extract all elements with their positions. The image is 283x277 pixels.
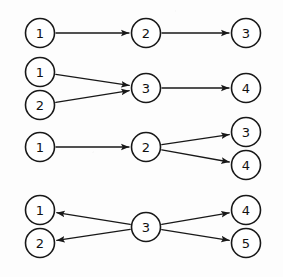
graph-node-hub-out-4[interactable]: 4: [232, 196, 261, 225]
node-label: 3: [242, 26, 250, 41]
graph-node-fan-in-3[interactable]: 3: [132, 74, 161, 103]
node-label: 4: [242, 203, 250, 218]
graph-edge-hub-out-3: [162, 213, 229, 224]
graph-node-hub-out-1[interactable]: 1: [26, 196, 55, 225]
node-label: 3: [142, 220, 150, 235]
node-label: 3: [142, 81, 150, 96]
graph-svg: 1231234123412345: [0, 0, 283, 277]
graph-node-hub-out-3[interactable]: 3: [132, 213, 161, 242]
node-label: 1: [36, 65, 44, 80]
graph-node-chain-1[interactable]: 1: [26, 19, 55, 48]
graph-edge-fan-out-3: [162, 150, 230, 162]
node-label: 4: [242, 158, 250, 173]
graph-node-fan-out-1[interactable]: 1: [26, 133, 55, 162]
graph-edge-fan-in-1: [56, 74, 129, 85]
graph-node-hub-out-2[interactable]: 2: [26, 229, 55, 258]
graph-edge-fan-out-2: [162, 135, 229, 145]
graph-node-fan-out-2[interactable]: 2: [132, 133, 161, 162]
graph-edge-hub-out-2: [57, 229, 130, 240]
graph-node-fan-out-3[interactable]: 3: [232, 118, 261, 147]
graph-node-fan-in-4[interactable]: 4: [232, 74, 261, 103]
graph-node-fan-in-2[interactable]: 2: [26, 91, 55, 120]
graph-edge-hub-out-4: [162, 230, 229, 241]
node-label: 5: [242, 236, 250, 251]
graph-edge-hub-out-1: [57, 213, 130, 225]
node-label: 3: [242, 125, 250, 140]
node-label: 1: [36, 26, 44, 41]
node-label: 2: [36, 98, 44, 113]
node-label: 2: [142, 140, 150, 155]
node-label: 2: [36, 236, 44, 251]
node-label: 4: [242, 81, 250, 96]
diagram-canvas: 1231234123412345: [0, 0, 283, 277]
graph-node-fan-out-4[interactable]: 4: [232, 151, 261, 180]
graph-node-chain-2[interactable]: 2: [132, 19, 161, 48]
graph-node-chain-3[interactable]: 3: [232, 19, 261, 48]
node-label: 2: [142, 26, 150, 41]
graph-node-fan-in-1[interactable]: 1: [26, 58, 55, 87]
graph-node-hub-out-5[interactable]: 5: [232, 229, 261, 258]
graph-edge-fan-in-2: [56, 91, 129, 103]
node-label: 1: [36, 140, 44, 155]
nodes-layer: 1231234123412345: [26, 19, 261, 258]
node-label: 1: [36, 203, 44, 218]
